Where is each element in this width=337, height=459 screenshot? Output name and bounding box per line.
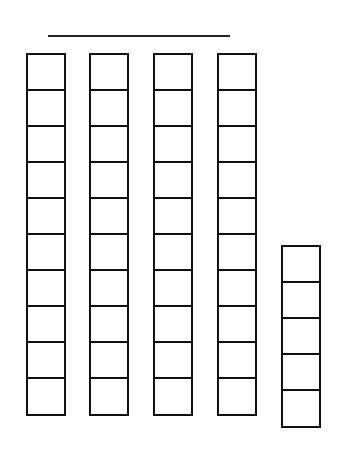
unit-cube	[153, 233, 193, 272]
unit-cube	[153, 161, 193, 200]
unit-cube	[26, 305, 66, 344]
unit-cube	[153, 269, 193, 308]
unit-cube	[89, 269, 129, 308]
unit-cube	[217, 125, 257, 164]
unit-cube	[89, 89, 129, 128]
unit-cube	[153, 305, 193, 344]
tens-rod	[153, 53, 193, 416]
tens-rod	[217, 53, 257, 416]
unit-cube	[217, 89, 257, 128]
unit-cube	[217, 233, 257, 272]
unit-cube	[26, 377, 66, 416]
ones-cubes-stack	[281, 245, 321, 428]
unit-cube	[217, 161, 257, 200]
unit-cube	[217, 305, 257, 344]
unit-cube	[217, 341, 257, 380]
unit-cube	[26, 269, 66, 308]
unit-cube	[26, 233, 66, 272]
unit-cube	[89, 305, 129, 344]
unit-cube	[281, 317, 321, 356]
unit-cube	[217, 269, 257, 308]
unit-cube	[153, 197, 193, 236]
unit-cube	[26, 125, 66, 164]
unit-cube	[26, 197, 66, 236]
tens-rod	[26, 53, 66, 416]
answer-blank-line[interactable]	[48, 35, 230, 37]
unit-cube	[217, 197, 257, 236]
unit-cube	[89, 161, 129, 200]
unit-cube	[89, 125, 129, 164]
unit-cube	[153, 341, 193, 380]
unit-cube	[89, 53, 129, 92]
unit-cube	[281, 245, 321, 284]
unit-cube	[89, 233, 129, 272]
unit-cube	[153, 53, 193, 92]
unit-cube	[26, 161, 66, 200]
unit-cube	[281, 353, 321, 392]
unit-cube	[89, 377, 129, 416]
unit-cube	[26, 89, 66, 128]
unit-cube	[217, 53, 257, 92]
unit-cube	[281, 281, 321, 320]
unit-cube	[153, 89, 193, 128]
unit-cube	[89, 197, 129, 236]
unit-cube	[153, 125, 193, 164]
unit-cube	[26, 53, 66, 92]
unit-cube	[281, 389, 321, 428]
tens-rod	[89, 53, 129, 416]
unit-cube	[217, 377, 257, 416]
unit-cube	[89, 341, 129, 380]
unit-cube	[26, 341, 66, 380]
unit-cube	[153, 377, 193, 416]
